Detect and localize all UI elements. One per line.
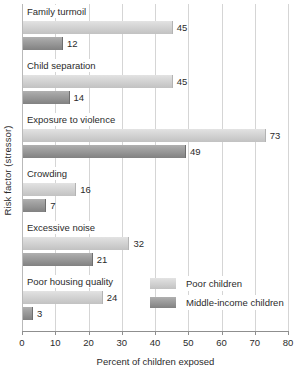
bar [23,291,103,304]
bar [23,75,173,88]
bar-row: 45 [23,75,289,88]
category-label: Child separation [26,59,99,72]
x-axis-tick-label: 30 [116,337,127,348]
bar [23,91,70,104]
bar [23,145,186,158]
x-axis-tick [288,331,289,335]
bar-group: Family turmoil4512 [23,5,288,59]
x-axis-tick-label: 10 [50,337,61,348]
category-label: Family turmoil [26,5,89,18]
bar-value-label: 24 [103,291,118,304]
bar-value-label: 32 [129,237,144,250]
category-label: Poor housing quality [26,275,116,288]
x-axis-tick-label: 0 [19,337,24,348]
bar-value-label: 49 [186,145,201,158]
x-axis-tick [255,331,256,335]
x-axis-tick-label: 20 [83,337,94,348]
bar-value-label: 7 [46,199,55,212]
bar [23,37,63,50]
category-label: Excessive noise [26,221,98,234]
bar-row: 32 [23,237,289,250]
legend-item-label: Middle-income children [184,295,286,310]
bar [23,129,266,142]
y-axis-title: Risk factor (stressor) [0,0,16,340]
x-axis-tick-label: 70 [249,337,260,348]
x-axis-tick-label: 60 [216,337,227,348]
x-axis-tick [188,331,189,335]
bar-row: 73 [23,129,289,142]
bar-value-label: 45 [173,21,188,34]
x-axis-tick [222,331,223,335]
x-axis-tick [55,331,56,335]
bar-value-label: 73 [266,129,281,142]
bar-row: 21 [23,253,289,266]
x-axis-tick-label: 40 [150,337,161,348]
bar-row: 12 [23,37,289,50]
bar-value-label: 3 [33,307,42,320]
bar [23,21,173,34]
bar-row: 49 [23,145,289,158]
category-label: Exposure to violence [26,113,118,126]
category-label: Crowding [26,167,70,180]
bar [23,237,129,250]
bar-chart: Risk factor (stressor) Family turmoil451… [0,0,304,377]
bar-value-label: 21 [93,253,108,266]
bar-value-label: 14 [70,91,85,104]
legend-item-label: Poor children [184,276,244,291]
bar-value-label: 45 [173,75,188,88]
bar-value-label: 12 [63,37,78,50]
bar-group: Excessive noise3221 [23,221,288,275]
x-axis-title: Percent of children exposed [22,356,289,367]
bar-group: Crowding167 [23,167,288,221]
bar-row: 14 [23,91,289,104]
x-axis-tick-label: 80 [283,337,294,348]
bar-row: 16 [23,183,289,196]
bar-value-label: 16 [76,183,91,196]
y-axis-title-text: Risk factor (stressor) [3,125,14,215]
bar [23,307,33,320]
bar [23,183,76,196]
bar-row: 45 [23,21,289,34]
x-axis-tick-label: 50 [183,337,194,348]
x-axis-tick [155,331,156,335]
bar [23,253,93,266]
gridline [288,4,289,331]
bar-row: 7 [23,199,289,212]
legend-swatch-icon [150,297,176,308]
bar [23,199,46,212]
legend-swatch-icon [150,278,176,289]
x-axis-tick [89,331,90,335]
x-axis-tick [22,331,23,335]
x-axis-tick [122,331,123,335]
bar-group: Exposure to violence7349 [23,113,288,167]
bar-group: Child separation4514 [23,59,288,113]
